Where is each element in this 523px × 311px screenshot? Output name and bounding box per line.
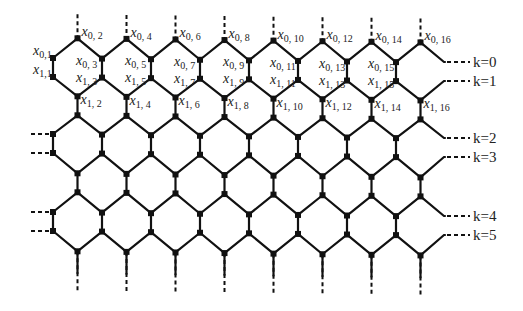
lattice-vertex xyxy=(344,232,350,238)
lattice-edge xyxy=(78,115,103,134)
lattice-edge xyxy=(200,155,225,175)
vertex-label: x0, 4 xyxy=(130,25,152,42)
layer-boundary-edge xyxy=(421,119,446,138)
vertex-label: x0, 14 xyxy=(375,28,402,45)
lattice-vertex xyxy=(50,209,56,215)
lattice-edge xyxy=(151,39,176,59)
lattice-vertex xyxy=(99,210,105,216)
lattice-vertex xyxy=(124,171,130,177)
lattice-vertex xyxy=(418,193,424,199)
vertex-label: x0, 11 xyxy=(269,55,296,72)
lattice-edge xyxy=(274,41,299,61)
vertex-label: x1, 13 xyxy=(318,73,345,90)
lattice-edge xyxy=(176,116,201,135)
lattice-edge xyxy=(323,157,348,177)
lattice-vertex xyxy=(222,191,228,197)
lattice-vertex xyxy=(197,152,203,158)
lattice-edge xyxy=(127,154,152,174)
lattice-edge xyxy=(323,235,348,255)
lattice-edge xyxy=(176,193,201,213)
lattice-vertex xyxy=(393,213,399,219)
lattice-vertex xyxy=(295,153,301,159)
lattice-vertex xyxy=(393,135,399,141)
lattice-vertex xyxy=(148,75,154,81)
lattice-vertex xyxy=(271,115,277,121)
vertex-label: x0, 6 xyxy=(179,25,201,42)
lattice-edge xyxy=(151,78,176,97)
vertex-label: x1, 12 xyxy=(325,95,352,112)
lattice-edge xyxy=(102,78,127,97)
lattice-vertex xyxy=(271,173,277,179)
vertex-label: x0, 8 xyxy=(228,26,250,43)
lattice-vertex xyxy=(369,39,375,45)
lattice-edge xyxy=(53,192,78,212)
lattice-vertex xyxy=(75,112,81,118)
vertex-label: x1, 3 xyxy=(75,70,97,87)
vertex-label: x1, 9 xyxy=(222,71,244,88)
lattice-edge xyxy=(249,195,274,215)
lattice-edge xyxy=(396,81,421,100)
lattice-vertex xyxy=(344,135,350,141)
lattice-edge xyxy=(249,118,274,137)
lattice-edge xyxy=(176,233,201,253)
lattice-vertex xyxy=(369,116,375,122)
lattice-edge xyxy=(372,157,397,177)
lattice-vertex xyxy=(418,116,424,122)
lattice-vertex xyxy=(124,113,130,119)
lattice-vertex xyxy=(197,211,203,217)
vertex-label: x1,1 xyxy=(32,62,52,79)
vertex-label: x0, 9 xyxy=(222,54,244,71)
lattice-edge xyxy=(127,193,152,213)
lattice-edge xyxy=(225,194,250,214)
vertex-label: x0,1 xyxy=(32,43,52,60)
lattice-edge xyxy=(53,231,78,251)
lattice-edge xyxy=(396,157,421,177)
layer-label-k2: k=2 xyxy=(473,130,496,146)
lattice-edge xyxy=(347,196,372,216)
lattice-edge xyxy=(200,117,225,136)
lattice-edge xyxy=(176,155,201,175)
lattice-edge xyxy=(396,119,421,138)
lattice-vertex xyxy=(148,151,154,157)
lattice-edge xyxy=(396,42,421,62)
vertex-label: x1, 7 xyxy=(173,71,195,88)
layer-boundary-edge xyxy=(421,157,446,177)
lattice-edge xyxy=(102,116,127,135)
lattice-edge xyxy=(347,119,372,138)
vertex-label: x0, 16 xyxy=(424,28,451,45)
lattice-edge xyxy=(372,235,397,255)
lattice-edge xyxy=(127,232,152,252)
lattice-edge xyxy=(323,41,348,61)
vertex-label: x0, 12 xyxy=(326,27,353,44)
vertex-labels: x0, 2x0, 4x0, 6x0, 8x0, 10x0, 12x0, 14x0… xyxy=(32,24,451,113)
lattice-edge xyxy=(102,154,127,174)
lattice-vertex xyxy=(246,76,252,82)
layer-label-k3: k=3 xyxy=(473,149,496,165)
honeycomb-lattice-diagram: x0, 2x0, 4x0, 6x0, 8x0, 10x0, 12x0, 14x0… xyxy=(0,0,523,311)
lattice-edge xyxy=(249,155,274,175)
layer-boundary-edge xyxy=(421,196,446,216)
vertex-label: x1, 10 xyxy=(276,95,303,112)
vertex-label: x1, 14 xyxy=(374,96,401,113)
lattice-edge xyxy=(225,233,250,253)
vertex-label: x0, 7 xyxy=(173,54,195,71)
lattice-edge xyxy=(274,118,299,137)
lattice-vertex xyxy=(418,39,424,45)
lattice-vertex xyxy=(75,189,81,195)
lattice-edge xyxy=(102,193,127,213)
lattice-vertex xyxy=(99,229,105,235)
lattice-edge xyxy=(78,154,103,174)
lattice-edge xyxy=(102,39,127,59)
lattice-vertex xyxy=(124,249,130,255)
lattice-edge xyxy=(200,233,225,253)
lattice-edge xyxy=(372,196,397,216)
lattice-vertex xyxy=(148,56,154,62)
lattice-edge xyxy=(347,235,372,255)
lattice-vertex xyxy=(197,57,203,63)
lattice-edge xyxy=(249,233,274,253)
lattice-edge xyxy=(78,192,103,212)
lattice-edge xyxy=(53,38,78,58)
lattice-edge xyxy=(53,153,78,173)
vertex-label: x1, 6 xyxy=(178,93,200,110)
lattice-vertex xyxy=(320,115,326,121)
